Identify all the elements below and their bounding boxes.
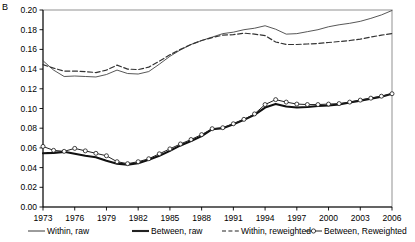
series-marker: [295, 102, 299, 106]
x-tick-label: 2003: [351, 213, 370, 223]
legend-marker-3: [311, 229, 315, 233]
series-marker: [284, 100, 288, 104]
series-marker: [348, 100, 352, 104]
y-tick-label: 0.20: [20, 5, 37, 15]
line-chart: 0.000.020.040.060.080.100.120.140.160.18…: [0, 0, 415, 242]
series-marker: [305, 103, 309, 107]
series-marker: [316, 103, 320, 107]
series-line-2: [43, 33, 392, 72]
series-marker: [369, 96, 373, 100]
series-marker: [62, 149, 66, 153]
y-tick-label: 0.06: [20, 143, 37, 153]
series-marker: [73, 146, 77, 150]
y-tick-label: 0.18: [20, 25, 37, 35]
legend-label-1: Between, raw: [151, 226, 203, 236]
series-marker: [274, 98, 278, 102]
series-marker: [379, 94, 383, 98]
series-marker: [200, 133, 204, 137]
legend-item-3[interactable]: Between, Reweighted: [305, 226, 407, 236]
series-marker: [390, 92, 394, 96]
x-tick-label: 1982: [129, 213, 148, 223]
y-tick-label: 0.08: [20, 123, 37, 133]
series-line-0: [43, 10, 392, 76]
y-tick-label: 0.02: [20, 182, 37, 192]
series-marker: [147, 157, 151, 161]
x-tick-label: 2006: [383, 213, 402, 223]
series-marker: [337, 102, 341, 106]
series-marker: [221, 126, 225, 130]
series-marker: [210, 127, 214, 131]
series-marker: [126, 162, 130, 166]
series-marker: [115, 160, 119, 164]
series-marker: [52, 148, 56, 152]
legend-label-2: Within, reweighted: [241, 226, 311, 236]
y-tick-label: 0.00: [20, 202, 37, 212]
x-axis-ticks: [43, 207, 392, 211]
y-axis-ticks: [40, 10, 44, 207]
series-marker: [104, 154, 108, 158]
series-marker: [178, 142, 182, 146]
x-tick-label: 1976: [65, 213, 84, 223]
y-tick-label: 0.12: [20, 84, 37, 94]
x-tick-label: 1997: [287, 213, 306, 223]
legend-item-1[interactable]: Between, raw: [132, 226, 203, 236]
x-tick-label: 1991: [224, 213, 243, 223]
series-marker: [41, 144, 45, 148]
x-tick-label: 1973: [34, 213, 53, 223]
x-tick-label: 1985: [160, 213, 179, 223]
chart-legend: Within, rawBetween, rawWithin, reweighte…: [28, 226, 407, 236]
x-tick-label: 2000: [319, 213, 338, 223]
y-tick-label: 0.16: [20, 44, 37, 54]
y-axis-tick-labels: 0.000.020.040.060.080.100.120.140.160.18…: [20, 5, 37, 212]
y-tick-label: 0.10: [20, 104, 37, 114]
series-layer: [41, 10, 394, 165]
series-marker: [189, 138, 193, 142]
series-marker: [358, 98, 362, 102]
figure-panel-b: B 0.000.020.040.060.080.100.120.140.160.…: [0, 0, 415, 242]
legend-item-0[interactable]: Within, raw: [28, 226, 90, 236]
legend-label-3: Between, Reweighted: [324, 226, 407, 236]
series-marker: [136, 160, 140, 164]
panel-label: B: [2, 2, 8, 12]
series-marker: [157, 152, 161, 156]
legend-label-0: Within, raw: [47, 226, 90, 236]
series-marker: [263, 103, 267, 107]
series-marker: [242, 117, 246, 121]
series-marker: [253, 112, 257, 116]
series-marker: [94, 151, 98, 155]
x-tick-label: 1994: [256, 213, 275, 223]
series-marker: [168, 147, 172, 151]
series-marker: [83, 149, 87, 153]
x-tick-label: 1988: [192, 213, 211, 223]
y-tick-label: 0.04: [20, 163, 37, 173]
plot-frame: [43, 10, 392, 207]
y-tick-label: 0.14: [20, 64, 37, 74]
x-axis-tick-labels: 1973197619791982198519881991199419972000…: [34, 213, 402, 223]
legend-item-2[interactable]: Within, reweighted: [222, 226, 311, 236]
series-marker: [231, 122, 235, 126]
series-marker: [327, 102, 331, 106]
x-tick-label: 1979: [97, 213, 116, 223]
